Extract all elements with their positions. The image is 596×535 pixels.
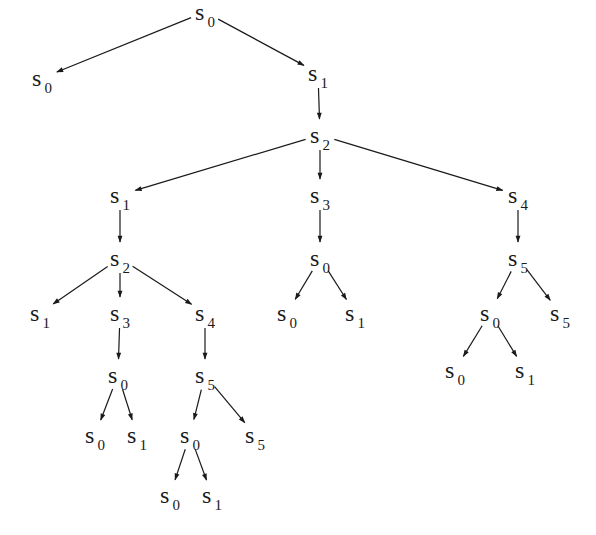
edge-arrow (328, 271, 346, 300)
node-subscript: 0 (44, 80, 52, 96)
tree-node-s5: s5 (245, 423, 265, 447)
node-subscript: 1 (357, 315, 365, 331)
tree-node-s4: s4 (508, 183, 528, 207)
tree-node-s1: s1 (110, 183, 130, 207)
node-subscript: 0 (207, 14, 215, 30)
node-label: s (550, 300, 559, 326)
node-subscript: 0 (120, 377, 128, 393)
edge-arrow (195, 449, 206, 480)
node-subscript: 1 (139, 437, 147, 453)
node-subscript: 2 (122, 260, 130, 276)
node-subscript: 3 (122, 315, 130, 331)
node-label: s (202, 482, 211, 508)
node-subscript: 0 (172, 497, 180, 513)
tree-node-s0: s0 (85, 423, 105, 447)
tree-node-s5: s5 (550, 301, 570, 325)
node-label: s (110, 245, 119, 271)
tree-node-s1: s1 (202, 483, 222, 507)
node-subscript: 5 (207, 377, 215, 393)
node-label: s (160, 482, 169, 508)
tree-node-s0: s0 (160, 483, 180, 507)
edge-arrow (215, 387, 245, 423)
edge-arrow (135, 139, 305, 190)
tree-node-s5: s5 (508, 246, 528, 270)
tree-node-s4: s4 (195, 301, 215, 325)
node-subscript: 1 (320, 75, 328, 91)
edge-arrow (123, 389, 133, 419)
node-label: s (108, 362, 117, 388)
node-subscript: 1 (527, 372, 535, 388)
tree-node-s3: s3 (110, 301, 130, 325)
node-subscript: 4 (520, 197, 528, 213)
tree-node-s0: s0 (180, 423, 200, 447)
tree-node-s0: s0 (195, 0, 215, 24)
tree-node-s2: s2 (310, 123, 330, 147)
edge-arrow (218, 19, 304, 65)
tree-node-s0: s0 (480, 301, 500, 325)
node-subscript: 3 (322, 197, 330, 213)
node-label: s (127, 422, 136, 448)
node-subscript: 5 (520, 260, 528, 276)
node-subscript: 1 (42, 315, 50, 331)
node-label: s (515, 357, 524, 383)
tree-node-s1: s1 (308, 61, 328, 85)
edge-arrow (498, 326, 517, 357)
tree-node-s0: s0 (108, 363, 128, 387)
edge-arrow (318, 88, 319, 119)
node-label: s (277, 300, 286, 326)
tree-node-s0: s0 (277, 301, 297, 325)
edge-arrow (334, 139, 502, 190)
node-label: s (32, 65, 41, 91)
tree-node-s5: s5 (195, 363, 215, 387)
node-subscript: 0 (97, 437, 105, 453)
node-label: s (445, 357, 454, 383)
node-subscript: 4 (207, 315, 215, 331)
tree-node-s1: s1 (515, 358, 535, 382)
tree-node-s3: s3 (310, 183, 330, 207)
edge-arrow (53, 266, 107, 303)
node-subscript: 0 (289, 315, 297, 331)
node-label: s (195, 362, 204, 388)
edge-arrow (497, 271, 511, 298)
edge-arrow (194, 390, 201, 420)
node-label: s (310, 122, 319, 148)
edge-arrow (119, 328, 120, 359)
node-label: s (180, 422, 189, 448)
node-label: s (310, 182, 319, 208)
node-label: s (480, 300, 489, 326)
tree-node-s1: s1 (30, 301, 50, 325)
tree-node-s1: s1 (345, 301, 365, 325)
node-subscript: 0 (322, 260, 330, 276)
tree-node-s0: s0 (310, 246, 330, 270)
node-label: s (110, 300, 119, 326)
node-subscript: 0 (192, 437, 200, 453)
node-label: s (195, 300, 204, 326)
node-label: s (508, 182, 517, 208)
node-subscript: 5 (257, 437, 265, 453)
state-tree-diagram: s0s0s1s2s1s3s4s2s0s5s1s3s4s0s1s0s5s0s5s0… (0, 0, 596, 535)
node-subscript: 2 (322, 137, 330, 153)
node-label: s (85, 422, 94, 448)
edge-arrow (463, 326, 482, 357)
edge-arrow (133, 266, 192, 304)
node-label: s (345, 300, 354, 326)
edge-arrow (175, 449, 185, 480)
node-label: s (30, 300, 39, 326)
tree-node-s1: s1 (127, 423, 147, 447)
node-subscript: 5 (562, 315, 570, 331)
node-subscript: 1 (122, 197, 130, 213)
node-label: s (308, 60, 317, 86)
edge-arrow (57, 18, 191, 72)
node-subscript: 1 (214, 497, 222, 513)
node-subscript: 0 (492, 315, 500, 331)
tree-edges (0, 0, 596, 535)
node-label: s (195, 0, 204, 25)
edge-arrow (295, 271, 312, 299)
tree-node-s2: s2 (110, 246, 130, 270)
node-label: s (245, 422, 254, 448)
node-label: s (508, 245, 517, 271)
edge-arrow (527, 270, 550, 300)
node-label: s (310, 245, 319, 271)
tree-node-s0: s0 (32, 66, 52, 90)
node-label: s (110, 182, 119, 208)
